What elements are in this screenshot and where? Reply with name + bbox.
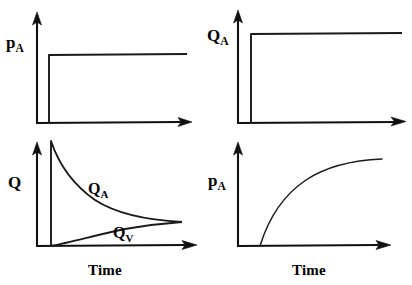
four-panel-figure: pA QA Q QA QV Time <box>0 0 412 285</box>
y-axis-label-bottom-right: pA <box>208 171 226 192</box>
step-curve-qa <box>251 33 402 123</box>
panel-bottom-left: Q QA QV Time <box>0 138 206 285</box>
x-axis-label-bottom-left: Time <box>88 262 122 278</box>
step-curve-pa <box>49 54 187 123</box>
plot-top-left: pA <box>0 0 206 142</box>
curve-label-qv: QV <box>113 224 133 244</box>
x-axis-top-left <box>37 122 180 123</box>
plot-bottom-right: pA Time <box>206 138 412 285</box>
x-axis-bottom-right <box>238 245 378 246</box>
panel-top-left: pA <box>0 0 206 142</box>
curve-pa-rise <box>260 159 382 246</box>
panel-top-right: QA <box>206 0 412 142</box>
x-axis-label-bottom-right: Time <box>292 262 326 278</box>
y-axis-label-top-left: pA <box>6 33 24 54</box>
y-axis-label-bottom-left: Q <box>8 173 21 192</box>
panel-bottom-right: pA Time <box>206 138 412 285</box>
y-axis-label-top-right: QA <box>207 26 229 47</box>
x-axis-top-right <box>238 122 394 123</box>
plot-bottom-left: Q QA QV Time <box>0 138 206 285</box>
plot-top-right: QA <box>206 0 412 142</box>
